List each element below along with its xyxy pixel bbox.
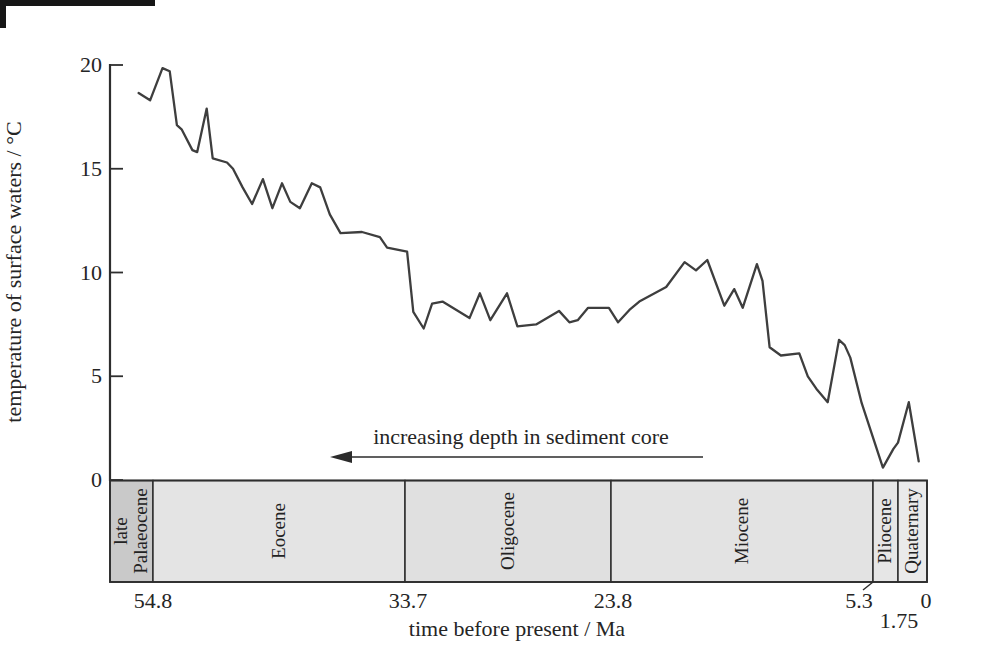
x-axis-title: time before present / Ma — [409, 616, 625, 642]
temperature-curve — [139, 68, 919, 468]
y-tick-label-0: 0 — [56, 467, 102, 493]
x-tick-label-0: 0 — [921, 588, 932, 614]
temperature-series-line — [139, 68, 919, 468]
y-tick-label-5: 5 — [56, 363, 102, 389]
depth-arrow-label: increasing depth in sediment core — [373, 424, 669, 450]
epoch-label-quaternary: Quaternary — [902, 489, 922, 574]
y-axis-title: temperature of surface waters / °C — [1, 121, 27, 422]
epoch-label-late-palaeocene: late Palaeocene — [111, 489, 151, 574]
scanned-figure-page: temperature of surface waters / °C time … — [0, 0, 990, 672]
x-tick-label-5-3: 5.3 — [845, 588, 873, 614]
epoch-label-miocene: Miocene — [732, 498, 752, 564]
depth-arrow-head — [330, 451, 352, 463]
x-tick-label-33-7: 33.7 — [389, 588, 428, 614]
y-tick-label-15: 15 — [56, 156, 102, 182]
x-tick-label-1-75: 1.75 — [880, 608, 919, 634]
y-tick-label-20: 20 — [56, 52, 102, 78]
y-tick-label-10: 10 — [56, 260, 102, 286]
y-axis-ticks — [110, 65, 123, 480]
epoch-band — [110, 481, 927, 583]
depth-arrow — [330, 451, 703, 463]
x-tick-label-54-8: 54.8 — [134, 588, 173, 614]
epoch-label-eocene: Eocene — [269, 503, 289, 559]
epoch-label-pliocene: Pliocene — [875, 499, 895, 564]
epoch-label-oligocene: Oligocene — [498, 492, 518, 570]
x-tick-label-23-8: 23.8 — [594, 588, 633, 614]
